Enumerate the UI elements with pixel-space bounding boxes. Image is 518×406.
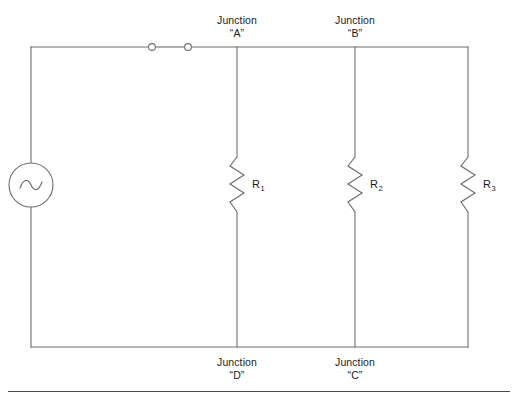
resistor-label-r1: R1 bbox=[252, 178, 264, 192]
junction-label-b-line2: “B” bbox=[300, 27, 410, 40]
junction-label-c: Junction “C” bbox=[300, 356, 410, 382]
resistor-symbol-r3 bbox=[461, 157, 475, 212]
junction-label-a: Junction “A” bbox=[182, 14, 292, 40]
junction-label-c-line1: Junction bbox=[300, 356, 410, 369]
resistor-label-r2-letter: R bbox=[370, 178, 378, 190]
caption-divider bbox=[8, 391, 510, 392]
ac-source-icon bbox=[9, 163, 53, 207]
resistor-label-r3: R3 bbox=[483, 178, 495, 192]
resistor-label-r1-subscript: 1 bbox=[261, 184, 265, 193]
resistor-label-r3-subscript: 3 bbox=[492, 184, 496, 193]
resistor-symbol-r2 bbox=[348, 157, 362, 212]
junction-label-b-line1: Junction bbox=[300, 14, 410, 27]
resistor-symbol-r1 bbox=[230, 157, 244, 212]
junction-label-a-line1: Junction bbox=[182, 14, 292, 27]
junction-label-c-line2: “C” bbox=[300, 369, 410, 382]
resistor-label-r3-letter: R bbox=[483, 178, 491, 190]
resistor-label-r1-letter: R bbox=[252, 178, 260, 190]
resistor-label-r2: R2 bbox=[370, 178, 382, 192]
resistor-label-r2-subscript: 2 bbox=[379, 184, 383, 193]
junction-label-d: Junction “D” bbox=[182, 356, 292, 382]
diagram-page: Junction “A” Junction “B” Junction “D” J… bbox=[0, 0, 518, 406]
circuit-schematic bbox=[0, 0, 518, 406]
junction-label-b: Junction “B” bbox=[300, 14, 410, 40]
junction-label-d-line1: Junction bbox=[182, 356, 292, 369]
junction-label-d-line2: “D” bbox=[182, 369, 292, 382]
junction-label-a-line2: “A” bbox=[182, 27, 292, 40]
